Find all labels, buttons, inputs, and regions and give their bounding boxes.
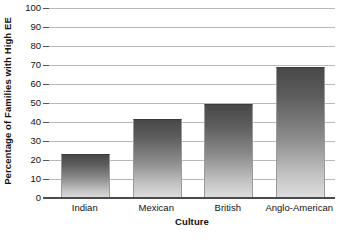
bar-chart-figure: Percentage of Families with High EE 0102… bbox=[0, 0, 343, 243]
bar bbox=[61, 154, 110, 198]
y-axis-tick-label: 50 bbox=[16, 98, 41, 108]
y-axis-tick-mark bbox=[43, 65, 49, 66]
y-axis-tick-mark bbox=[43, 103, 49, 104]
y-axis-tick-mark bbox=[43, 8, 49, 9]
x-axis-tick-label: Anglo-American bbox=[265, 201, 333, 214]
y-axis-tick-label: 100 bbox=[16, 3, 41, 13]
y-axis-tick-mark bbox=[43, 160, 49, 161]
y-axis-tick-label-group: 0102030405060708090100 bbox=[16, 8, 41, 198]
y-axis-tick-mark bbox=[43, 179, 49, 180]
y-axis-tick-mark bbox=[43, 122, 49, 123]
y-axis-title: Percentage of Families with High EE bbox=[0, 0, 14, 202]
y-axis-tick-label: 70 bbox=[16, 60, 41, 70]
y-axis-tick-label: 20 bbox=[16, 155, 41, 165]
y-axis-tick-mark bbox=[43, 46, 49, 47]
x-axis-tick-label: Indian bbox=[72, 201, 98, 214]
y-axis-tick-label: 90 bbox=[16, 22, 41, 32]
y-axis-tick-mark bbox=[43, 84, 49, 85]
bar bbox=[133, 119, 182, 198]
y-axis-tick-mark bbox=[43, 141, 49, 142]
x-axis-baseline bbox=[43, 197, 335, 199]
y-axis-tick-mark bbox=[43, 198, 49, 199]
x-axis-tick-label-group: IndianMexicanBritishAnglo-American bbox=[49, 201, 335, 215]
x-axis-tick-label: Mexican bbox=[139, 201, 174, 214]
y-axis-tick-label: 30 bbox=[16, 136, 41, 146]
bar bbox=[204, 104, 253, 198]
y-axis-tick-label: 40 bbox=[16, 117, 41, 127]
y-axis-tick-label: 0 bbox=[16, 193, 41, 203]
plot-area bbox=[49, 8, 335, 198]
bars-group bbox=[49, 8, 335, 198]
y-axis-tick-label: 10 bbox=[16, 174, 41, 184]
y-axis-tick-label: 80 bbox=[16, 41, 41, 51]
y-axis-tick-mark bbox=[43, 27, 49, 28]
x-axis-title: Culture bbox=[49, 216, 335, 227]
y-axis-tick-label: 60 bbox=[16, 79, 41, 89]
bar bbox=[276, 67, 325, 198]
x-axis-tick-label: British bbox=[215, 201, 241, 214]
